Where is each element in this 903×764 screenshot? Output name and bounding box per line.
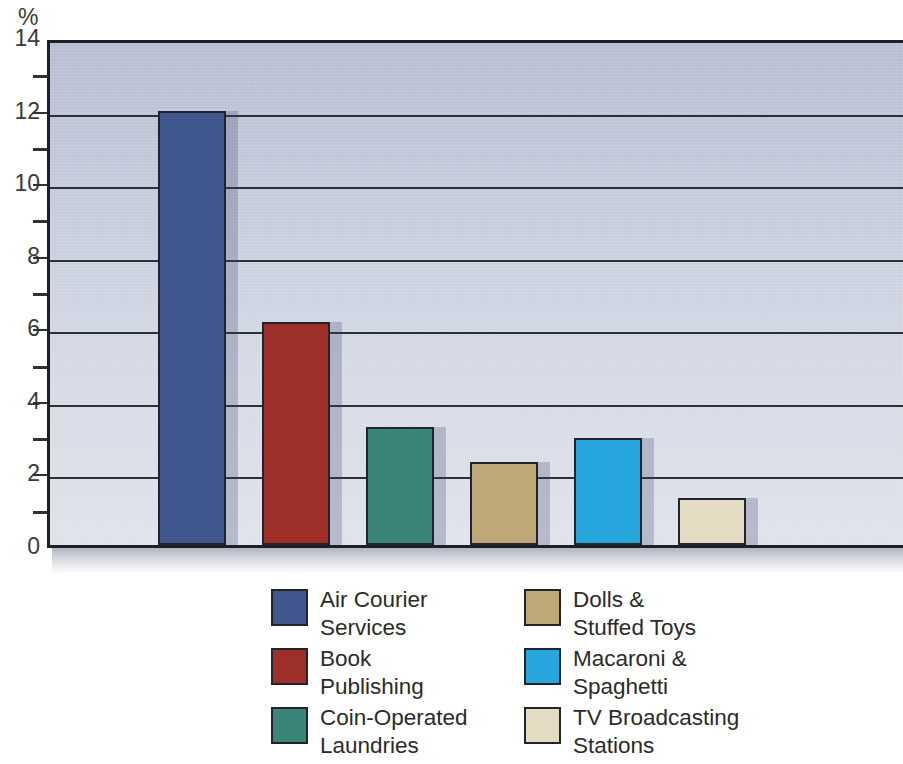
- y-axis-tick-mark-12: [33, 112, 47, 114]
- legend-item: Air Courier Services: [271, 586, 521, 645]
- bar-macaroni-spaghetti: [574, 438, 642, 545]
- bar-tv-broadcasting-stations: [678, 498, 746, 545]
- bar-dolls-stuffed-toys: [470, 462, 538, 545]
- legend-item: Dolls & Stuffed Toys: [524, 586, 903, 645]
- y-axis-minor-tick-1: [33, 511, 47, 514]
- y-axis-tick-mark-4: [33, 402, 47, 404]
- legend-swatch-coin-operated-laundries: [271, 707, 308, 744]
- legend-item: Macaroni & Spaghetti: [524, 645, 903, 704]
- bar-air-courier-services: [158, 111, 226, 545]
- y-axis-minor-tick-13: [33, 75, 47, 78]
- legend-label: Air Courier Services: [320, 586, 428, 642]
- y-axis-minor-tick-3: [33, 438, 47, 441]
- y-axis-minor-tick-11: [33, 148, 47, 151]
- y-axis-tick-mark-8: [33, 257, 47, 259]
- legend-label: Macaroni & Spaghetti: [573, 645, 687, 701]
- legend-column-left: Air Courier ServicesBook PublishingCoin-…: [271, 586, 521, 763]
- legend-swatch-book-publishing: [271, 648, 308, 685]
- y-axis-minor-tick-7: [33, 293, 47, 296]
- legend-swatch-dolls-stuffed-toys: [524, 589, 561, 626]
- y-axis-tick-mark-2: [33, 474, 47, 476]
- bar-chart-figure: % 14121086420 Air Courier ServicesBook P…: [0, 0, 903, 764]
- y-axis-tick-label-0: 0: [0, 535, 40, 558]
- bar-book-publishing: [262, 322, 330, 545]
- y-axis-tick-label-14: 14: [0, 27, 40, 50]
- legend-swatch-air-courier-services: [271, 589, 308, 626]
- legend-label: Coin-Operated Laundries: [320, 704, 468, 760]
- legend-item: Book Publishing: [271, 645, 521, 704]
- legend-label: Book Publishing: [320, 645, 424, 701]
- legend-swatch-macaroni-spaghetti: [524, 648, 561, 685]
- legend-label: TV Broadcasting Stations: [573, 704, 739, 760]
- legend-label: Dolls & Stuffed Toys: [573, 586, 696, 642]
- legend-item: TV Broadcasting Stations: [524, 704, 903, 763]
- chart-legend: Air Courier ServicesBook PublishingCoin-…: [0, 586, 903, 764]
- y-axis-minor-tick-9: [33, 220, 47, 223]
- baseline-shadow: [52, 548, 903, 574]
- legend-item: Coin-Operated Laundries: [271, 704, 521, 763]
- legend-swatch-tv-broadcasting-stations: [524, 707, 561, 744]
- legend-column-right: Dolls & Stuffed ToysMacaroni & Spaghetti…: [524, 586, 903, 763]
- plot-area: [47, 40, 903, 548]
- y-axis-tick-mark-6: [33, 329, 47, 331]
- y-axis-tick-mark-10: [33, 184, 47, 186]
- y-axis-minor-tick-5: [33, 366, 47, 369]
- bar-coin-operated-laundries: [366, 427, 434, 545]
